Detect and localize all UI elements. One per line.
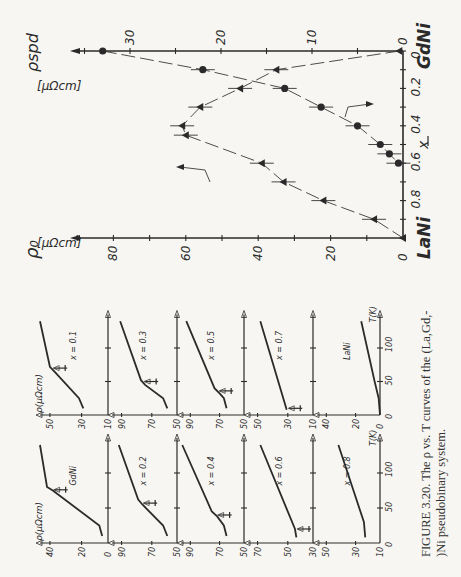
rho-tick-label: 70	[148, 419, 157, 429]
main-plot: 00.20.40.60.80204060800102030 LaNi GdNi …	[21, 22, 434, 261]
panel-label: x = 0.6	[275, 456, 284, 486]
rho-tick-label: 30	[284, 419, 293, 429]
panel-label: x = 0.3	[139, 331, 148, 361]
rho-tick-label: 50	[240, 547, 249, 557]
rho-tick-label: 50	[254, 419, 263, 429]
rho-axis-title: ρ(μΩcm)	[34, 374, 44, 413]
arrow-head-icon	[176, 164, 184, 170]
panel-label: x = 0.2	[139, 456, 148, 486]
circle-marker	[199, 66, 206, 73]
panel-label: x = 0.4	[207, 456, 216, 486]
rho-T-curve	[40, 445, 102, 536]
panel-x0.1: 103050x = 0.1ρ(μΩcm)	[34, 311, 113, 430]
triangle-marker	[236, 84, 243, 92]
panel-lani: 02040LaNi050100T(K)	[313, 306, 394, 429]
main-labels: LaNi GdNi x ρ₀ [μΩcm] ρspd [μΩcm]	[21, 22, 434, 259]
circle-marker	[386, 150, 393, 157]
rho-tick-label: 30	[78, 419, 87, 429]
right-tick-label: 10	[305, 29, 319, 45]
t-tick-label: 0	[385, 414, 394, 419]
rho-axis-title: ρ(μΩcm)	[34, 502, 44, 541]
panel-x0.8: 103050x = 0.8050100T(K)	[313, 430, 394, 557]
t-tick-label: 100	[385, 337, 394, 352]
right-tick-label: 30	[123, 29, 137, 45]
rho-tick-label: 20	[352, 419, 361, 429]
rho-T-curve	[182, 445, 226, 536]
triangle-marker	[319, 197, 326, 205]
circle-marker	[318, 104, 325, 111]
rho-tick-label: 70	[148, 547, 157, 557]
t-tick-label: 50	[385, 375, 394, 385]
rho0-unit: [μΩcm]	[37, 236, 82, 250]
panel-x0.5: 507090x = 0.5	[177, 311, 249, 430]
circle-marker	[281, 85, 288, 92]
circle-marker	[99, 47, 106, 54]
main-ticks: 00.20.40.60.80204060800102030	[77, 29, 423, 261]
circle-marker	[395, 160, 402, 167]
panel-label: x = 0.7	[275, 330, 284, 361]
panel-label: x = 0.1	[69, 331, 78, 361]
t-axis-title: T(K)	[369, 430, 378, 446]
rhospd-label: ρspd	[23, 32, 42, 72]
panel-x0.2: 507090x = 0.2	[108, 434, 182, 557]
t-tick-label: 100	[385, 462, 394, 477]
rho-tick-label: 50	[322, 547, 331, 557]
rho-vs-T-panels: 02040GdNiρ(μΩcm)103050x = 0.1ρ(μΩcm)5070…	[34, 306, 394, 557]
panel-label: x = 0.5	[207, 331, 216, 361]
rho-tick-label: 30	[352, 547, 361, 557]
rho-tick-label: 10	[309, 419, 318, 429]
rho-tick-label: 30	[309, 547, 318, 557]
caption: FIGURE 3.20. The ρ vs. T curves of the (…	[419, 311, 448, 557]
right-axis-arrow-icon	[70, 48, 80, 54]
right-tick-label: 0	[396, 37, 410, 45]
panel-label: LaNi	[343, 342, 352, 360]
triangle-marker	[182, 131, 189, 139]
triangle-marker	[395, 47, 402, 55]
rhospd-unit: [μΩcm]	[37, 79, 82, 93]
rho-tick-label: 50	[173, 419, 182, 429]
rho-tick-label: 70	[216, 419, 225, 429]
left-tick-label: 80	[106, 245, 120, 261]
rho-tick-label: 50	[173, 547, 182, 557]
x-tick-label: 0.8	[409, 189, 423, 208]
rho-tick-label: 50	[46, 419, 55, 429]
rho-tick-label: 90	[186, 547, 195, 557]
panel-x0.4: 507090x = 0.4	[177, 434, 249, 557]
left-tick-label: 0	[396, 253, 410, 261]
caption-line-1: FIGURE 3.20. The ρ vs. T curves of the (…	[419, 311, 433, 557]
rho-tick-label: 40	[46, 547, 55, 557]
panel-label: GdNi	[69, 465, 78, 485]
figure-canvas: 00.20.40.60.80204060800102030 LaNi GdNi …	[0, 0, 461, 577]
t-tick-label: 0	[385, 542, 394, 547]
rho-tick-label: 20	[78, 547, 87, 557]
triangle-marker	[258, 159, 265, 167]
triangle-marker	[272, 66, 279, 74]
rho-tick-label: 70	[216, 547, 225, 557]
gdni-label: GdNi	[414, 22, 434, 69]
rotated-figure: 00.20.40.60.80204060800102030 LaNi GdNi …	[0, 0, 461, 577]
left-tick-label: 20	[324, 245, 338, 261]
rho-tick-label: 10	[104, 419, 113, 429]
x-tick-label: 0.4	[409, 115, 423, 134]
x-tick-label: 0.2	[409, 77, 423, 96]
rho-tick-label: 0	[104, 552, 113, 557]
triangle-marker	[370, 215, 377, 223]
lani-label: LaNi	[414, 215, 434, 259]
panel-x0.7: 103050x = 0.7	[244, 311, 318, 430]
main-data	[99, 47, 410, 242]
rho0-pointer-arrow-icon	[180, 167, 210, 182]
caption-line-2: )Ni pseudobinary system.	[434, 429, 448, 557]
rho-tick-label: 90	[118, 547, 127, 557]
rho-tick-label: 40	[322, 419, 331, 429]
rho-tick-label: 70	[254, 547, 263, 557]
circle-marker	[354, 122, 361, 129]
panel-gdni: 02040GdNiρ(μΩcm)	[34, 434, 113, 557]
circle-marker	[377, 141, 384, 148]
panel-label: x = 0.8	[343, 456, 352, 486]
triangle-marker	[178, 122, 185, 130]
rho-tick-label: 10	[376, 547, 385, 557]
rho-tick-label: 50	[284, 547, 293, 557]
right-tick-label: 20	[214, 29, 228, 45]
panel-x0.6: 305070x = 0.6	[244, 434, 318, 557]
rho-tick-label: 90	[118, 419, 127, 429]
